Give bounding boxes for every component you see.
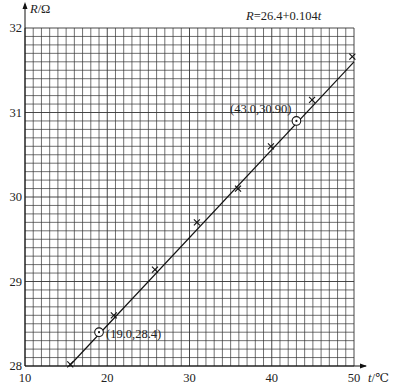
data-point-x: [152, 267, 158, 273]
chart-title-equation: R=26.4+0.104t: [245, 9, 322, 23]
grid: [25, 28, 354, 366]
tick-labels: 10203040502829303132: [10, 21, 361, 385]
data-point-x: [349, 54, 355, 60]
y-tick-label: 32: [10, 21, 23, 35]
x-axis-label: t/℃: [368, 371, 389, 385]
y-tick-label: 28: [10, 359, 23, 373]
x-tick-label: 10: [19, 371, 32, 385]
point-annotation-1: (19.0,28.4): [106, 327, 161, 341]
data-point-x: [309, 97, 315, 103]
x-tick-label: 40: [266, 371, 279, 385]
x-tick-label: 20: [101, 371, 114, 385]
y-tick-label: 31: [10, 106, 23, 120]
chart: 10203040502829303132 R=26.4+0.104t R/Ω t…: [0, 0, 399, 388]
data-points: [67, 54, 355, 368]
data-point-circle: [292, 117, 301, 126]
y-tick-label: 30: [10, 190, 23, 204]
x-tick-label: 50: [348, 371, 361, 385]
data-point-circle: [95, 328, 104, 337]
y-tick-label: 29: [10, 275, 23, 289]
x-tick-label: 30: [183, 371, 196, 385]
y-axis-label: R/Ω: [29, 2, 50, 16]
point-annotation-2: (43.0,30.90): [230, 102, 291, 116]
